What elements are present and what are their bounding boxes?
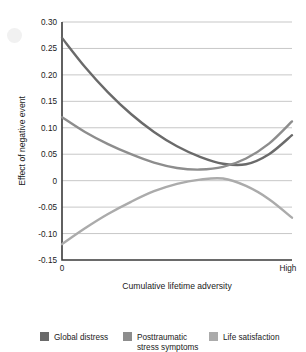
y-tick-label: 0.10 [41,124,57,133]
legend-swatch-posttraumatic-stress-symptoms [123,332,132,341]
y-tick-label: 0.05 [41,150,57,159]
x-axis-title: Cumulative lifetime adversity [122,281,232,291]
legend-label-global-distress: Global distress [54,333,108,342]
scan-smudge-artifact [7,28,22,43]
y-tick-labels: 0.30 0.25 0.20 0.15 0.10 0.05 0 -0.05 -0… [38,18,57,265]
data-curves [62,38,292,244]
curve-life-satisfaction [62,178,292,244]
legend-label-posttraumatic-line2: stress symptoms [137,343,198,352]
legend-swatch-life-satisfaction [209,332,218,341]
y-tick-label: -0.05 [38,203,57,212]
y-tick-label: 0.30 [41,18,57,27]
gridlines [62,22,292,234]
chart-figure: 0.30 0.25 0.20 0.15 0.10 0.05 0 -0.05 -0… [0,0,306,352]
chart-svg: 0.30 0.25 0.20 0.15 0.10 0.05 0 -0.05 -0… [0,0,306,352]
axis-spines [62,22,292,260]
y-tick-label: 0.15 [41,97,57,106]
y-tick-label: 0.20 [41,71,57,80]
x-tick-label-left: 0 [60,264,65,273]
x-tick-labels: 0 High [60,264,297,273]
y-axis-title: Effect of negative event [17,96,27,186]
x-tick-label-right: High [280,264,297,273]
legend-swatch-global-distress [40,332,49,341]
legend-label-posttraumatic-line1: Posttraumatic [137,333,187,342]
chart-legend: Global distress Posttraumatic stress sym… [40,332,280,352]
legend-label-life-satisfaction: Life satisfaction [223,333,280,342]
y-tick-label: -0.15 [38,256,57,265]
y-tick-label: 0.25 [41,44,57,53]
y-tick-label: 0 [52,177,57,186]
y-tick-label: -0.10 [38,230,57,239]
